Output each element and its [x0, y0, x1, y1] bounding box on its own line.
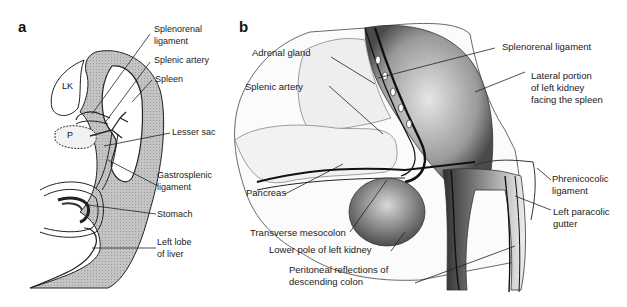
panel-a-cross-section: a LK P Splenorenal ligament Splenic arte… — [0, 0, 215, 307]
panel-letter-b: b — [239, 18, 248, 35]
label-splenorenal-ligament-b: Splenorenal ligament — [502, 41, 591, 53]
label-p: P — [67, 130, 73, 140]
label-splenic-artery-b: Splenic artery — [245, 81, 303, 93]
label-adrenal-gland: Adrenal gland — [252, 47, 311, 59]
panel-b-anatomical-drawing: b Adrenal gland Splenic artery Pancreas … — [215, 0, 627, 307]
label-pancreas: Pancreas — [246, 187, 286, 199]
label-left-lobe-of-liver: Left lobe of liver — [157, 237, 192, 260]
label-lateral-portion-left-kidney: Lateral portion of left kidney facing th… — [531, 70, 603, 106]
label-spleen: Spleen — [155, 74, 183, 86]
panel-letter-a: a — [18, 18, 26, 35]
label-lk: LK — [62, 81, 73, 91]
label-left-paracolic-gutter: Left paracolic gutter — [553, 206, 610, 230]
label-gastrosplenic-ligament: Gastrosplenic ligament — [157, 170, 212, 193]
label-stomach: Stomach — [157, 209, 193, 221]
label-lesser-sac: Lesser sac — [172, 127, 216, 139]
label-peritoneal-reflections: Peritoneal reflections of descending col… — [289, 264, 388, 288]
label-phrenicocolic-ligament: Phrenicocolic ligament — [552, 173, 609, 197]
label-splenorenal-ligament: Splenorenal ligament — [154, 24, 202, 47]
label-splenic-artery: Splenic artery — [154, 55, 209, 67]
label-lower-pole-of-left-kidney: Lower pole of left kidney — [269, 244, 371, 256]
label-transverse-mesocolon: Transverse mesocolon — [250, 227, 346, 239]
